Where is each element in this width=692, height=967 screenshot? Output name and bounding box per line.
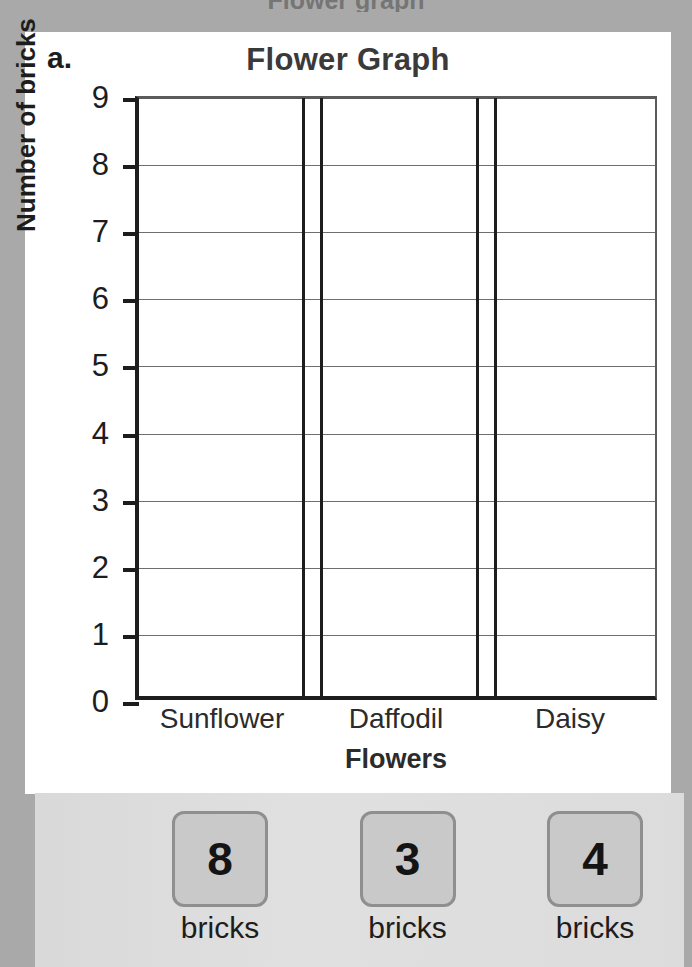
answer-tile[interactable]: 3 bbox=[360, 811, 456, 907]
answer-tile-caption: bricks bbox=[556, 913, 634, 943]
answer-tile-group[interactable]: 3bricks bbox=[338, 811, 478, 943]
gridline bbox=[139, 568, 655, 569]
y-axis-tick bbox=[123, 568, 139, 572]
y-axis-tick-label: 3 bbox=[63, 485, 109, 516]
y-axis-tick bbox=[123, 635, 139, 639]
x-axis-title: Flowers bbox=[135, 744, 657, 775]
gridline bbox=[139, 366, 655, 367]
column-divider bbox=[320, 98, 323, 696]
plot-area: 0123456789 bbox=[135, 96, 657, 700]
y-axis-tick-label: 7 bbox=[63, 216, 109, 247]
answer-tile-value: 4 bbox=[582, 836, 608, 882]
y-axis-tick bbox=[123, 232, 139, 236]
y-axis-tick-label: 1 bbox=[63, 619, 109, 650]
y-axis-tick bbox=[123, 501, 139, 505]
answer-tile[interactable]: 8 bbox=[172, 811, 268, 907]
y-axis-tick-label: 8 bbox=[63, 149, 109, 180]
x-axis-category-label: Daffodil bbox=[309, 704, 483, 733]
answer-tile-value: 3 bbox=[395, 836, 421, 882]
y-axis-tick-label: 5 bbox=[63, 350, 109, 381]
worksheet-card: a. Flower Graph Number of bricks 0123456… bbox=[25, 32, 671, 794]
answer-tiles-panel: 8bricks3bricks4bricks bbox=[35, 793, 684, 967]
gridline bbox=[139, 501, 655, 502]
y-axis-tick bbox=[123, 299, 139, 303]
x-axis-tick-labels: SunflowerDaffodilDaisy bbox=[135, 704, 657, 733]
answer-tile-group[interactable]: 8bricks bbox=[150, 811, 290, 943]
answer-tile-caption: bricks bbox=[368, 913, 446, 943]
gridline bbox=[139, 299, 655, 300]
cropped-header-text: Flower graph bbox=[0, 0, 692, 12]
gridline bbox=[139, 434, 655, 435]
gridline bbox=[139, 98, 655, 99]
answer-tile-caption: bricks bbox=[181, 913, 259, 943]
gridline bbox=[139, 635, 655, 636]
gridline bbox=[139, 232, 655, 233]
y-axis-tick bbox=[123, 165, 139, 169]
x-axis-category-label: Daisy bbox=[483, 704, 657, 733]
y-axis-tick-label: 2 bbox=[63, 552, 109, 583]
column-divider bbox=[476, 98, 479, 696]
answer-tile-value: 8 bbox=[207, 836, 233, 882]
answer-tile[interactable]: 4 bbox=[547, 811, 643, 907]
y-axis-tick-label: 6 bbox=[63, 283, 109, 314]
y-axis-tick-label: 4 bbox=[63, 417, 109, 448]
answer-tile-group[interactable]: 4bricks bbox=[525, 811, 665, 943]
y-axis-title: Number of bricks bbox=[11, 0, 42, 232]
gridline bbox=[139, 165, 655, 166]
answer-tiles-row: 8bricks3bricks4bricks bbox=[150, 811, 665, 943]
x-axis-category-label: Sunflower bbox=[135, 704, 309, 733]
y-axis-tick bbox=[123, 366, 139, 370]
y-axis-tick-label: 0 bbox=[63, 686, 109, 717]
y-axis-tick bbox=[123, 434, 139, 438]
y-axis-tick-label: 9 bbox=[63, 82, 109, 113]
column-divider bbox=[494, 98, 497, 696]
chart-area: Number of bricks 0123456789 SunflowerDaf… bbox=[25, 32, 671, 794]
y-axis-tick bbox=[123, 98, 139, 102]
column-divider bbox=[302, 98, 305, 696]
